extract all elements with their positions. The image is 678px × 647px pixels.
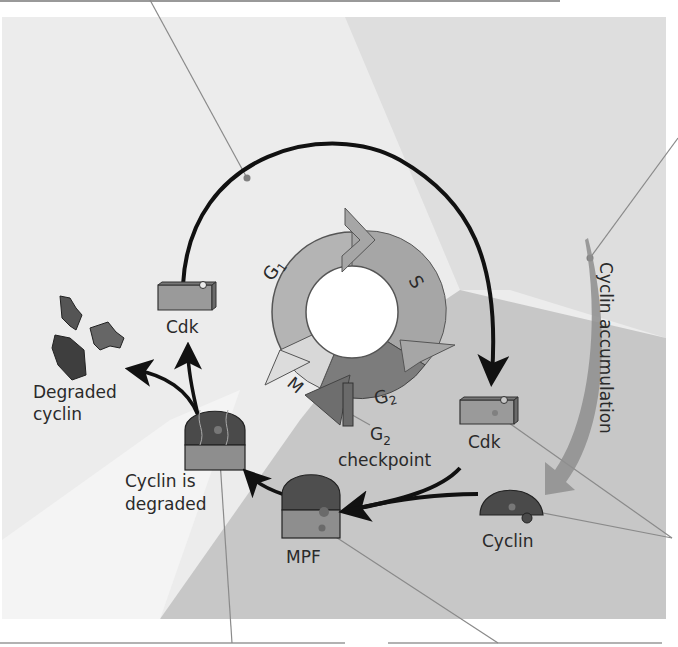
svg-text:degraded: degraded (125, 494, 207, 514)
cdk-right (460, 397, 518, 425)
mpf-label: MPF (286, 547, 321, 567)
degrading-mpf (185, 410, 245, 470)
cdk-right-label: Cdk (468, 432, 501, 452)
svg-text:Degraded: Degraded (33, 382, 117, 402)
svg-text:checkpoint: checkpoint (338, 450, 431, 470)
cell-cycle-diagram: Cyclin accumulation G1 S G2 M (0, 0, 678, 647)
svg-text:cyclin: cyclin (33, 404, 82, 424)
cyclin-label: Cyclin (482, 531, 534, 551)
g2-checkpoint-bar (343, 383, 353, 426)
cdk-top-label: Cdk (166, 317, 199, 337)
svg-text:Cyclin is: Cyclin is (125, 471, 196, 491)
mpf (282, 475, 340, 538)
cyclin-accumulation-label: Cyclin accumulation (596, 262, 616, 434)
cdk-top (158, 282, 216, 311)
